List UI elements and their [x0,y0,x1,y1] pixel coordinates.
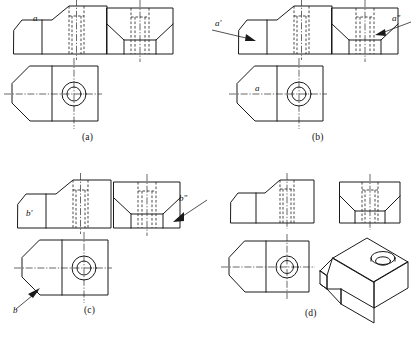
caption-d: (d) [305,308,317,318]
front-view-c [18,182,128,242]
panel-a: a (a) [0,0,207,170]
caption-b: (b) [312,132,324,142]
side-view-d [340,182,400,228]
isometric-view-d [315,232,414,326]
label-a-top-b: a [255,83,260,93]
label-b-c: b [13,305,18,315]
panel-b: a′ a″ a (b) [207,0,414,170]
panel-d: (d) [207,170,414,340]
label-a-front-a: a [33,13,38,23]
leader-b-c [14,287,50,313]
label-a-double-prime-b: a″ [392,13,400,23]
label-b-double-prime-c: b″ [179,193,187,203]
top-view-b [237,63,343,125]
top-view-d [229,238,327,296]
label-a-prime-b: a′ [215,18,221,28]
front-view-d [231,182,327,236]
caption-c: (c) [84,305,95,315]
caption-a: (a) [82,132,93,142]
leader-b-double-prime-c [165,200,209,226]
side-view-a [107,8,173,58]
label-b-prime-c: b′ [26,208,32,218]
panel-c: b′ b″ b (c) [0,170,207,340]
top-view-a [12,63,118,125]
leader-a-double-prime-b [363,20,413,44]
